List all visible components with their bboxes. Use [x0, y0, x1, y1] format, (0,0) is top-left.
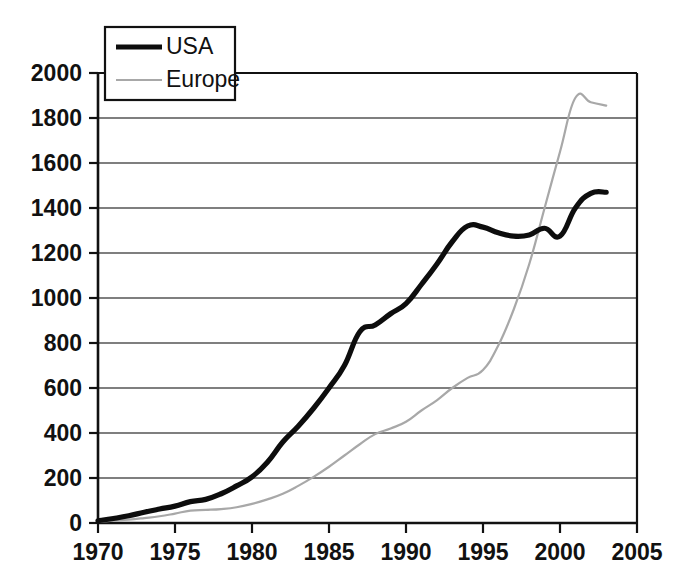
x-tick-label: 2005: [611, 539, 662, 565]
y-tick-label: 200: [44, 465, 82, 491]
legend-label-europe: Europe: [166, 66, 240, 92]
gridlines: [98, 118, 637, 478]
line-chart: 2000180016001400120010008006004002000 19…: [0, 0, 687, 585]
y-tick-label: 400: [44, 420, 82, 446]
y-tick-label: 0: [69, 510, 82, 536]
chart-legend[interactable]: USA Europe: [105, 27, 240, 100]
y-tick-label: 600: [44, 375, 82, 401]
x-tick-label: 1970: [72, 539, 123, 565]
y-tick-label: 1200: [31, 240, 82, 266]
series-line-usa: [98, 192, 606, 521]
data-series-group: [98, 94, 606, 522]
x-tick-label: 1995: [457, 539, 508, 565]
legend-label-usa: USA: [166, 33, 214, 59]
y-tick-label: 2000: [31, 60, 82, 86]
y-tick-label: 1400: [31, 195, 82, 221]
chart-container: 2000180016001400120010008006004002000 19…: [0, 0, 687, 585]
series-line-europe: [98, 94, 606, 522]
x-tick-label: 1985: [303, 539, 354, 565]
y-axis-tick-labels: 2000180016001400120010008006004002000: [31, 60, 82, 536]
y-tick-label: 1600: [31, 150, 82, 176]
x-tick-label: 2000: [534, 539, 585, 565]
y-tick-label: 800: [44, 330, 82, 356]
y-axis-tick-marks: [89, 73, 98, 523]
x-tick-label: 1975: [149, 539, 200, 565]
y-tick-label: 1000: [31, 285, 82, 311]
y-tick-label: 1800: [31, 105, 82, 131]
x-axis-tick-marks: [98, 523, 637, 533]
x-tick-label: 1990: [380, 539, 431, 565]
x-axis-tick-labels: 19701975198019851990199520002005: [72, 539, 662, 565]
x-tick-label: 1980: [226, 539, 277, 565]
